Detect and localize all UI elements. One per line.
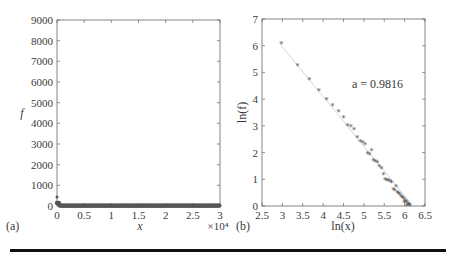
bottom-rule (10, 249, 446, 252)
y-tick-label: 5 (253, 66, 259, 78)
y-tick-label: 7 (253, 13, 259, 25)
y-tick-label: 1000 (31, 179, 54, 191)
x-axis-label: ln(x) (331, 219, 354, 233)
x-tick-label: 2.5 (186, 209, 200, 221)
y-tick-label: 7000 (31, 55, 54, 67)
data-point: * (405, 202, 409, 211)
data-point: * (307, 76, 311, 85)
chart-panel-b: 2.533.544.555.566.501234567(b)ln(x)ln(f)… (235, 13, 432, 233)
x-tick-label: 5.5 (377, 209, 391, 221)
x-axis-label: x (136, 219, 143, 233)
x-tick-label: 3 (280, 209, 286, 221)
x-tick-label: 5 (361, 209, 367, 221)
y-axis-label: f (20, 106, 25, 120)
x-axis-multiplier: ×10⁴ (207, 220, 228, 232)
y-tick-label: 4 (253, 93, 259, 105)
y-tick-label: 2 (253, 147, 259, 159)
x-tick-label: 1 (109, 209, 115, 221)
data-point: * (370, 147, 374, 156)
data-point: * (324, 96, 328, 105)
data-point: * (317, 87, 321, 96)
plot-frame (262, 19, 425, 206)
data-point: * (337, 108, 341, 117)
y-tick-label: 5000 (31, 97, 54, 109)
annotation-alpha: a = 0.9816 (352, 77, 403, 91)
y-tick-label: 0 (253, 200, 259, 212)
data-point: * (295, 62, 299, 71)
x-tick-label: 3.5 (296, 209, 310, 221)
figure: 00.511.522.53010002000300040005000600070… (0, 0, 455, 257)
y-tick-label: 9000 (31, 14, 54, 26)
data-point (56, 196, 59, 199)
y-tick-label: 2000 (31, 159, 54, 171)
chart-panel-a: 00.511.522.53010002000300040005000600070… (6, 14, 229, 233)
x-tick-label: 0.5 (77, 209, 91, 221)
data-point (217, 203, 221, 207)
x-tick-label: 2 (163, 209, 169, 221)
y-tick-label: 0 (48, 200, 54, 212)
x-tick-label: 0 (54, 209, 60, 221)
data-point: * (279, 40, 283, 49)
y-axis-label: ln(f) (235, 102, 249, 123)
y-tick-label: 8000 (31, 35, 54, 47)
data-point: * (330, 102, 334, 111)
data-point: * (363, 141, 367, 150)
panel-label: (b) (236, 219, 250, 233)
y-tick-label: 3000 (31, 138, 54, 150)
panel-label: (a) (6, 219, 19, 233)
plot-frame (57, 20, 220, 206)
x-tick-label: 4 (320, 209, 326, 221)
x-tick-label: 6.5 (418, 209, 432, 221)
y-tick-label: 6000 (31, 76, 54, 88)
y-tick-label: 6 (253, 40, 259, 52)
y-tick-label: 3 (253, 120, 259, 132)
y-tick-label: 1 (253, 173, 259, 185)
y-tick-label: 4000 (31, 117, 54, 129)
